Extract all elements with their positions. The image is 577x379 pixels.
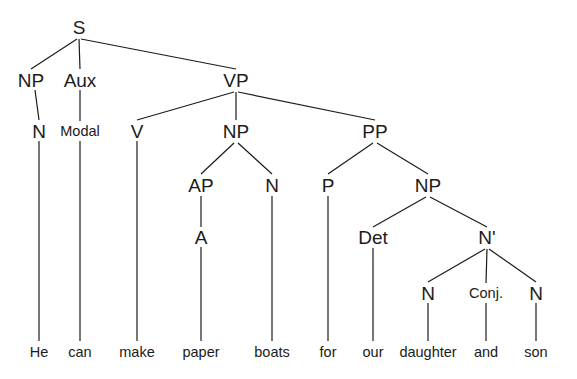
tree-leaf-w_boats: boats xyxy=(254,345,289,360)
tree-leaf-w_son: son xyxy=(524,345,547,360)
tree-node-n2: N xyxy=(265,176,279,195)
tree-leaf-w_make: make xyxy=(119,345,154,360)
tree-node-n1: N xyxy=(32,122,46,141)
tree-node-ap: AP xyxy=(188,176,213,195)
tree-node-a: A xyxy=(195,228,208,247)
tree-node-np3: NP xyxy=(415,176,441,195)
tree-node-n4: N xyxy=(529,284,543,303)
tree-node-conj: Conj. xyxy=(469,286,503,301)
tree-leaf-w_and: and xyxy=(474,345,498,360)
tree-node-pp: PP xyxy=(362,122,387,141)
tree-leaf-w_can: can xyxy=(68,345,91,360)
tree-node-v: V xyxy=(131,122,144,141)
tree-nodes-layer: SNPAuxVPNModalVNPPPAPNPNPADetN'NConj.NHe… xyxy=(0,0,577,379)
tree-node-vp: VP xyxy=(223,71,248,90)
tree-node-np1: NP xyxy=(18,71,44,90)
tree-leaf-w_he: He xyxy=(30,345,49,360)
tree-node-np2: NP xyxy=(223,122,249,141)
tree-leaf-w_daughter: daughter xyxy=(399,345,456,360)
tree-leaf-w_paper: paper xyxy=(182,345,219,360)
tree-leaf-w_our: our xyxy=(363,345,384,360)
tree-node-det: Det xyxy=(358,228,388,247)
tree-node-n3: N xyxy=(421,284,435,303)
syntax-tree-diagram: SNPAuxVPNModalVNPPPAPNPNPADetN'NConj.NHe… xyxy=(0,0,577,379)
tree-node-nbar: N' xyxy=(478,228,495,247)
tree-node-p: P xyxy=(322,176,335,195)
tree-node-aux: Aux xyxy=(64,71,97,90)
tree-leaf-w_for: for xyxy=(320,345,337,360)
tree-node-modal: Modal xyxy=(60,124,100,139)
tree-node-s: S xyxy=(73,18,86,37)
